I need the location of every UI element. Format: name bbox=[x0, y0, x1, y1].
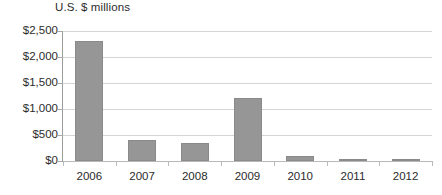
gridline-2500 bbox=[63, 31, 432, 32]
y-axis-label: $0 bbox=[6, 155, 58, 167]
x-axis-label-2011: 2011 bbox=[327, 170, 380, 182]
gridline-1500 bbox=[63, 83, 432, 84]
bar-2012[interactable] bbox=[392, 159, 420, 161]
x-axis-label-2010: 2010 bbox=[274, 170, 327, 182]
x-axis-tick bbox=[221, 161, 222, 166]
x-axis-tick bbox=[63, 161, 64, 166]
y-axis-tick bbox=[57, 109, 63, 110]
y-axis-tick bbox=[57, 57, 63, 58]
y-axis-tick bbox=[57, 135, 63, 136]
y-axis-label: $1,000 bbox=[6, 103, 58, 115]
x-axis-tick bbox=[168, 161, 169, 166]
y-axis-label: $2,500 bbox=[6, 25, 58, 37]
y-axis-tick bbox=[57, 31, 63, 32]
plot-area bbox=[63, 31, 432, 161]
bar-2008[interactable] bbox=[181, 143, 209, 161]
x-axis-label-2012: 2012 bbox=[379, 170, 432, 182]
y-axis-label: $2,000 bbox=[6, 51, 58, 63]
y-axis-labels: $0$500$1,000$1,500$2,000$2,500 bbox=[0, 0, 58, 195]
chart-title: U.S. $ millions bbox=[55, 1, 130, 13]
bar-2010[interactable] bbox=[286, 156, 314, 161]
x-axis-label-2006: 2006 bbox=[63, 170, 116, 182]
bar-2007[interactable] bbox=[128, 140, 156, 161]
gridline-0 bbox=[63, 161, 432, 162]
y-axis-tick bbox=[57, 83, 63, 84]
x-axis-tick bbox=[116, 161, 117, 166]
x-axis-tick bbox=[379, 161, 380, 166]
x-axis-label-2008: 2008 bbox=[168, 170, 221, 182]
bar-2006[interactable] bbox=[75, 41, 103, 161]
x-axis-tick bbox=[327, 161, 328, 166]
bar-2009[interactable] bbox=[234, 98, 262, 161]
x-axis-tick bbox=[274, 161, 275, 166]
bar-chart: U.S. $ millions $0$500$1,000$1,500$2,000… bbox=[0, 0, 442, 195]
x-axis-tick bbox=[432, 161, 433, 166]
gridline-2000 bbox=[63, 57, 432, 58]
y-axis-label: $500 bbox=[6, 129, 58, 141]
bar-2011[interactable] bbox=[339, 159, 367, 161]
x-axis-label-2007: 2007 bbox=[116, 170, 169, 182]
x-axis-label-2009: 2009 bbox=[221, 170, 274, 182]
y-axis-label: $1,500 bbox=[6, 77, 58, 89]
